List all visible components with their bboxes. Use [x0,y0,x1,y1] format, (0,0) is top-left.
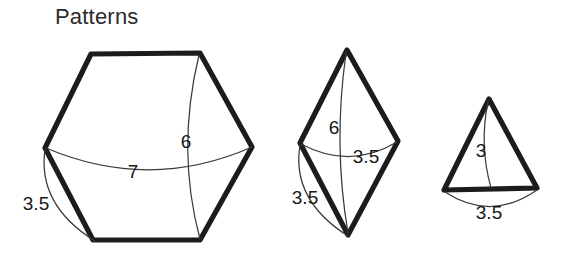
rhombus-height-label: 6 [329,117,340,138]
patterns-figure-page: Patterns 7 6 3.5 6 3.5 3.5 [0,0,570,258]
rhombus-side-label: 3.5 [292,187,318,208]
patterns-drawing: 7 6 3.5 6 3.5 3.5 3 3.5 [0,0,570,258]
hexagon-width-label: 7 [128,161,139,182]
rhombus-width-label: 3.5 [353,146,379,167]
triangle-base-label: 3.5 [476,202,502,223]
hexagon-height-label: 6 [181,131,192,152]
triangle-height-label: 3 [476,140,487,161]
hexagon-outline [45,53,252,240]
figure-hexagon: 7 6 3.5 [23,53,252,241]
figure-triangle: 3 3.5 [444,99,537,223]
figure-rhombus: 6 3.5 3.5 [292,50,398,236]
triangle-outline [444,99,537,190]
hexagon-side-label: 3.5 [23,193,49,214]
